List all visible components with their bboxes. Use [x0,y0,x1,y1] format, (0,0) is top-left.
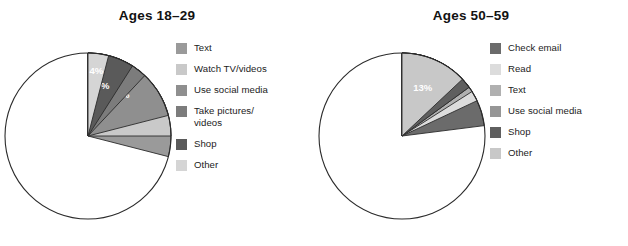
pie-chart-right: 23%18%16%15%15%13% [316,50,488,222]
legend-item-label: Other [194,159,218,171]
legend-swatch-icon [176,43,187,54]
legend-item-label: Other [508,147,532,159]
legend-right: Check emailReadTextUse social mediaShopO… [490,30,628,168]
legend-swatch-icon [490,106,501,117]
legend-swatch-icon [490,85,501,96]
legend-item[interactable]: Text [490,84,628,96]
pie-chart-figure: Ages 18–29 29%25%21%12%9%4% TextWatch TV… [0,0,628,246]
pie-chart-left: 29%25%21%12%9%4% [2,50,174,222]
legend-swatch-icon [176,64,187,75]
legend-swatch-icon [490,127,501,138]
legend-item[interactable]: Check email [490,42,628,54]
legend-item-label: Text [508,84,526,96]
chart-panel-ages-50-59: Ages 50–59 23%18%16%15%15%13% Check emai… [314,0,628,246]
legend-item-label: Shop [194,138,217,150]
legend-swatch-icon [176,106,187,117]
legend-swatch-icon [490,64,501,75]
pie-wrap-right: 23%18%16%15%15%13% [314,30,490,242]
legend-item[interactable]: Shop [490,126,628,138]
legend-item-label: Shop [508,126,531,138]
legend-item[interactable]: Other [176,159,314,171]
legend-item[interactable]: Read [490,63,628,75]
pie-wrap-left: 29%25%21%12%9%4% [0,30,176,242]
legend-item-label: Check email [508,42,561,54]
legend-swatch-icon [176,139,187,150]
legend-swatch-icon [176,85,187,96]
legend-item[interactable]: Use social media [490,105,628,117]
legend-item-label: Watch TV/videos [194,63,267,75]
legend-swatch-icon [490,148,501,159]
chart-body-right: 23%18%16%15%15%13% Check emailReadTextUs… [314,30,628,242]
page-title-right: Ages 50–59 [314,8,628,23]
pie-slice-label: 13% [413,82,433,93]
legend-swatch-icon [176,160,187,171]
legend-item[interactable]: Use social media [176,84,314,96]
legend-item[interactable]: Other [490,147,628,159]
legend-left: TextWatch TV/videosUse social mediaTake … [176,30,314,180]
chart-body-left: 29%25%21%12%9%4% TextWatch TV/videosUse … [0,30,314,242]
legend-swatch-icon [490,43,501,54]
chart-panel-ages-18-29: Ages 18–29 29%25%21%12%9%4% TextWatch TV… [0,0,314,246]
legend-item[interactable]: Take pictures/ videos [176,105,314,129]
pie-slice-label: 4% [89,65,103,76]
legend-item-label: Text [194,42,212,54]
legend-item[interactable]: Shop [176,138,314,150]
legend-item-label: Read [508,63,531,75]
legend-item-label: Use social media [194,84,268,96]
legend-item-label: Take pictures/ videos [194,105,254,129]
page-title-left: Ages 18–29 [0,8,314,23]
legend-item[interactable]: Watch TV/videos [176,63,314,75]
legend-item-label: Use social media [508,105,582,117]
legend-item[interactable]: Text [176,42,314,54]
